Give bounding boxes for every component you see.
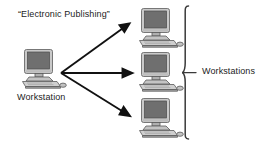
- source-node-label: Workstation: [17, 92, 65, 103]
- arrow-source-to-workstation-2: [61, 69, 133, 78]
- desktop-computer-icon: [136, 96, 184, 140]
- node-source-workstation: [19, 47, 67, 91]
- workstations-brace: [182, 4, 202, 142]
- node-workstation-3: [136, 96, 184, 140]
- network-diagram: “Electronic Publishing” Workstation Work…: [0, 0, 263, 147]
- desktop-computer-icon: [19, 47, 67, 91]
- diagram-title: “Electronic Publishing”: [18, 9, 110, 20]
- arrow-source-to-workstation-1: [61, 24, 130, 74]
- arrow-source-to-workstation-3: [61, 73, 130, 116]
- desktop-computer-icon: [136, 6, 184, 50]
- node-workstation-2: [136, 50, 184, 94]
- desktop-computer-icon: [136, 50, 184, 94]
- node-workstation-1: [136, 6, 184, 50]
- workstations-group-label: Workstations: [202, 66, 255, 77]
